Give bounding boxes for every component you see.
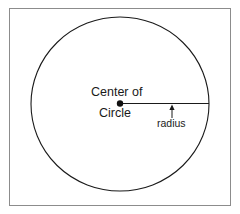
center-label-line-2: Circle (99, 107, 131, 120)
center-label-line-1: Center of (91, 86, 142, 99)
radius-label: radius (157, 118, 186, 129)
circle-diagram-figure: Center of Circle radius (0, 0, 240, 214)
